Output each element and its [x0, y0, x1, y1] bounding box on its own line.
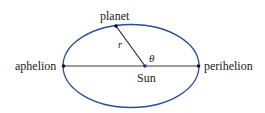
planet-label: planet: [100, 9, 130, 23]
aphelion-label: aphelion: [15, 59, 56, 73]
perihelion-point: [197, 64, 201, 68]
planet-point: [114, 24, 118, 28]
perihelion-label: perihelion: [204, 59, 253, 73]
sun-label: Sun: [137, 71, 156, 85]
r-label: r: [118, 38, 123, 50]
aphelion-point: [62, 64, 66, 68]
theta-label: θ: [149, 52, 155, 64]
orbit-diagram: planet r θ Sun aphelion perihelion: [0, 0, 265, 113]
sun-point: [143, 64, 147, 68]
